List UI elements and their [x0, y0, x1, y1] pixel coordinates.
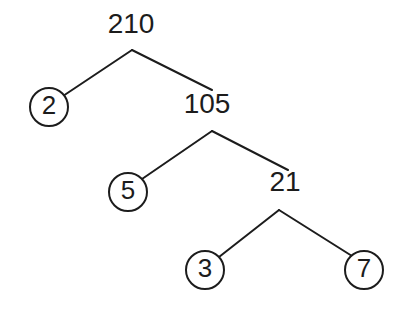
node-21: 21 [269, 166, 300, 197]
node-105: 105 [184, 88, 231, 119]
node-5-label: 5 [121, 175, 135, 205]
node-3: 3 [186, 251, 224, 289]
node-2-label: 2 [42, 90, 56, 120]
factor-tree-diagram: 210 2 105 5 21 3 [0, 0, 404, 311]
node-210: 210 [108, 8, 155, 39]
edge-210-to-2 [63, 50, 132, 96]
edge-105-to-5 [142, 131, 212, 179]
factor-tree-canvas: 210 2 105 5 21 3 [0, 0, 404, 311]
node-5: 5 [109, 173, 147, 211]
node-2: 2 [30, 88, 68, 126]
node-7-label: 7 [357, 253, 371, 283]
edge-21-to-3 [219, 210, 279, 257]
node-21-label: 21 [269, 166, 300, 197]
edge-210-to-105 [132, 50, 212, 90]
node-3-label: 3 [198, 253, 212, 283]
node-210-label: 210 [108, 8, 155, 39]
node-7: 7 [345, 251, 383, 289]
edge-21-to-7 [279, 210, 352, 256]
edge-group [63, 50, 352, 257]
node-group: 210 2 105 5 21 3 [30, 8, 383, 289]
edge-105-to-21 [212, 131, 288, 170]
node-105-label: 105 [184, 88, 231, 119]
